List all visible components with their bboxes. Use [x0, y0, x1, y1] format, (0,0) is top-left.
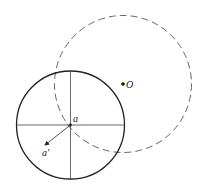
point-a	[69, 124, 72, 127]
label-O: O	[126, 79, 133, 90]
geometry-diagram: a a' O	[0, 0, 204, 195]
point-O	[121, 82, 125, 86]
label-a-prime: a'	[42, 147, 50, 158]
label-a: a	[73, 113, 78, 124]
arrow-a-to-a-prime	[45, 125, 71, 145]
